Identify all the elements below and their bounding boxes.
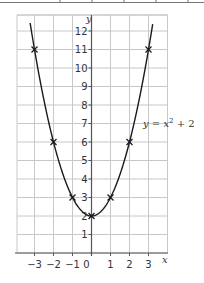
y-tick-label: 10 <box>75 63 88 74</box>
x-tick-label: 1 <box>107 259 113 270</box>
x-tick-label: 3 <box>145 259 151 270</box>
y-axis-label: y <box>85 13 92 24</box>
y-tick-label: 8 <box>81 100 87 111</box>
table-fragment <box>0 0 204 3</box>
parabola-chart: −3−2−10123123456789101112 y x y = x2 + 2 <box>0 0 204 283</box>
y-tick-label: 9 <box>81 81 87 92</box>
y-tick-label: 5 <box>81 155 87 166</box>
curve-equation-label: y = x2 + 2 <box>142 117 195 129</box>
x-axis-label: x <box>162 254 168 265</box>
x-tick-label: −3 <box>27 259 42 270</box>
tick-labels: −3−2−10123123456789101112 <box>27 26 152 271</box>
y-tick-label: 4 <box>81 174 87 185</box>
x-tick-label: 0 <box>83 259 89 270</box>
y-tick-label: 11 <box>75 44 88 55</box>
x-tick-label: −2 <box>46 259 61 270</box>
x-tick-label: 2 <box>126 259 132 270</box>
axes <box>15 15 168 256</box>
x-tick-label: −1 <box>65 259 80 270</box>
y-tick-label: 6 <box>81 137 87 148</box>
y-tick-label: 1 <box>81 229 87 240</box>
y-tick-label: 7 <box>81 118 87 129</box>
y-tick-label: 3 <box>81 192 87 203</box>
y-tick-label: 12 <box>75 26 88 37</box>
